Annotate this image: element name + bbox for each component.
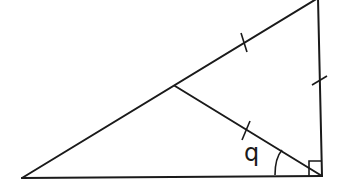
angle-arc-q	[275, 150, 282, 175]
hypotenuse	[22, 0, 318, 178]
base	[22, 176, 322, 178]
vertical-leg	[318, 0, 322, 176]
angle-label-q: q	[244, 141, 259, 165]
triangle-diagram	[0, 0, 346, 195]
